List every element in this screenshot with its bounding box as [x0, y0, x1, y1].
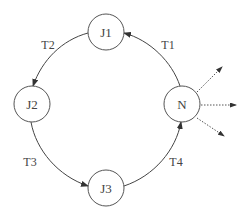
- node-n-label: N: [177, 97, 187, 112]
- outgoing-arrow-up: [197, 67, 222, 92]
- node-j1: J1: [88, 14, 124, 50]
- edge-label-t1: T1: [161, 38, 174, 52]
- edge-label-t3: T3: [23, 155, 36, 169]
- edge-t3: [31, 122, 88, 186]
- outgoing-arrow-down: [197, 118, 224, 136]
- ring-diagram: J1 J2 J3 N T1 T2 T3 T4: [0, 0, 247, 216]
- node-j3: J3: [88, 170, 124, 206]
- node-j3-label: J3: [100, 181, 112, 196]
- edge-label-t4: T4: [169, 155, 182, 169]
- node-j1-label: J1: [100, 25, 112, 40]
- node-j2: J2: [14, 86, 50, 122]
- node-n: N: [164, 86, 200, 122]
- node-j2-label: J2: [26, 97, 38, 112]
- edge-t4: [124, 122, 181, 186]
- edge-label-t2: T2: [41, 38, 54, 52]
